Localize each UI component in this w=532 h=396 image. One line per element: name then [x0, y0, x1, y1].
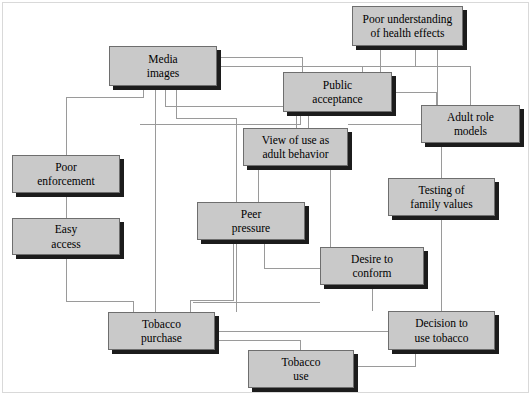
node-label: Poor enforcement [16, 160, 116, 188]
edge-decision-to-tobacco-use [354, 350, 415, 366]
node-view-of-use[interactable]: View of use as adult behavior [243, 128, 348, 166]
node-adult-role-models[interactable]: Adult role models [421, 105, 520, 143]
edge-tobacco-purchase-to-tobacco-use [215, 340, 300, 350]
edge-media-images-to-peer-pressure [176, 86, 236, 312]
node-easy-access[interactable]: Easy access [12, 218, 120, 255]
node-label-line1: Public [323, 79, 352, 91]
node-label-line1: Desire to [351, 253, 393, 265]
edge-easy-access-to-tobacco-purchase [66, 255, 133, 312]
diagram-canvas: Poor understanding of health effects Med… [0, 0, 532, 396]
edge-public-acceptance-to-adult-role-models [392, 92, 436, 105]
node-label-line1: Testing of [418, 184, 464, 196]
node-label-line2: conform [324, 266, 420, 280]
node-label-line1: Peer [241, 208, 261, 220]
node-decision-to-use-tobacco[interactable]: Decision to use tobacco [388, 311, 495, 350]
edge-media-images-to-view-of-use [165, 86, 296, 128]
node-tobacco-purchase[interactable]: Tobacco purchase [108, 312, 215, 350]
node-label: Public acceptance [287, 78, 388, 106]
node-label-line1: Media [148, 53, 177, 65]
edge-peer-pressure-to-tobacco-purchase [190, 240, 233, 312]
node-testing-family-values[interactable]: Testing of family values [388, 178, 495, 216]
node-label-line2: use tobacco [392, 331, 491, 345]
node-desire-to-conform[interactable]: Desire to conform [320, 247, 424, 285]
node-label-line2: acceptance [287, 92, 388, 106]
node-label: Tobacco purchase [112, 317, 211, 345]
node-label: Peer pressure [201, 207, 301, 235]
node-label-line2: enforcement [16, 174, 116, 188]
node-label: Adult role models [425, 110, 516, 138]
node-label-line2: images [113, 66, 213, 80]
node-label-line2: use [252, 369, 350, 383]
node-label: Desire to conform [324, 252, 420, 280]
node-label: Poor understanding of health effects [356, 12, 459, 40]
node-label-line2: of health effects [356, 26, 459, 40]
node-poor-understanding[interactable]: Poor understanding of health effects [352, 6, 463, 46]
node-media-images[interactable]: Media images [109, 46, 217, 86]
node-label: Decision to use tobacco [392, 316, 491, 344]
node-label: Media images [113, 52, 213, 80]
node-label-line2: adult behavior [247, 147, 344, 161]
node-label: View of use as adult behavior [247, 133, 344, 161]
node-label: Easy access [16, 222, 116, 250]
edge-poor-understanding-to-public-acceptance-alt [362, 46, 415, 72]
node-label-line1: Easy [55, 223, 77, 235]
node-label-line1: Poor [55, 161, 77, 173]
node-label: Tobacco use [252, 355, 350, 383]
edge-media-images-to-public-acceptance [217, 57, 302, 72]
node-label-line2: models [425, 124, 516, 138]
node-label-line1: Poor understanding [363, 13, 453, 25]
node-label-line1: Adult role [447, 111, 494, 123]
node-label-line2: family values [392, 197, 491, 211]
node-label-line2: pressure [201, 221, 301, 235]
node-label-line1: Tobacco [142, 318, 181, 330]
node-tobacco-use[interactable]: Tobacco use [248, 350, 354, 388]
node-label-line2: access [16, 237, 116, 251]
edge-peer-pressure-to-desire-to-conform [264, 240, 320, 268]
node-label-line2: purchase [112, 331, 211, 345]
node-label: Testing of family values [392, 183, 491, 211]
node-peer-pressure[interactable]: Peer pressure [197, 202, 305, 240]
node-label-line1: Decision to [415, 317, 468, 329]
node-label-line1: Tobacco [282, 356, 321, 368]
edge-media-images-to-poor-enforcement [66, 86, 143, 155]
node-poor-enforcement[interactable]: Poor enforcement [12, 155, 120, 193]
node-label-line1: View of use as [262, 134, 329, 146]
node-public-acceptance[interactable]: Public acceptance [283, 72, 392, 112]
